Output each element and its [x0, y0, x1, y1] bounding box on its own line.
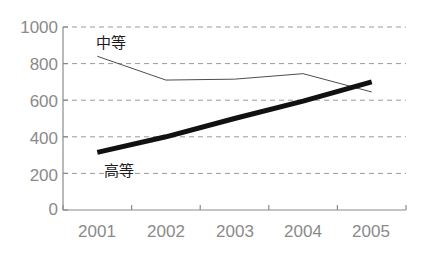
x-tick-label-2005: 2005	[336, 222, 406, 242]
x-tick-label-2002: 2002	[131, 222, 201, 242]
y-tick-label-0: 0	[4, 200, 58, 220]
series-label-secondary: 中等	[96, 31, 126, 52]
line-chart: 1000 800 600 400 200 0 2001 2002 2003 20…	[0, 0, 427, 263]
series-line-thick	[97, 82, 371, 152]
y-tick-label-200: 200	[4, 166, 58, 186]
x-tick-label-2003: 2003	[200, 222, 270, 242]
series-line-thin	[97, 56, 371, 92]
x-tick-label-2001: 2001	[62, 222, 132, 242]
y-tick-label-600: 600	[4, 92, 58, 112]
series-paths	[97, 56, 371, 152]
y-tick-label-1000: 1000	[4, 18, 58, 38]
y-tick-label-800: 800	[4, 55, 58, 75]
y-tick-label-400: 400	[4, 129, 58, 149]
series-label-higher: 高等	[104, 159, 134, 180]
x-tick-label-2004: 2004	[268, 222, 338, 242]
